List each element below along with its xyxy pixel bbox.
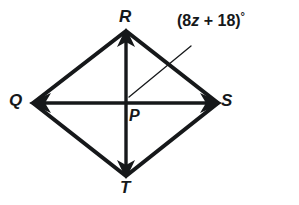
degree-symbol-icon: ° [241, 10, 245, 22]
angle-measure-label: (8z + 18)° [177, 11, 245, 29]
angle-coefficient: 8 [182, 12, 191, 29]
vertex-label-Q: Q [9, 92, 22, 109]
vertex-label-R: R [119, 8, 131, 25]
leader-line-angle-RPS [129, 46, 191, 97]
diagram-canvas [0, 0, 299, 205]
angle-leader-line [129, 46, 191, 97]
vertex-label-P: P [129, 108, 140, 124]
angle-constant: 18 [217, 12, 235, 29]
vertex-label-T: T [120, 179, 130, 196]
geometry-figure: R Q S T P (8z + 18)° [0, 0, 299, 205]
vertex-label-S: S [221, 92, 232, 109]
angle-operator: + [204, 12, 213, 29]
